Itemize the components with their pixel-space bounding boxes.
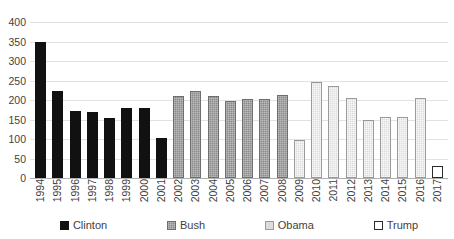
bar-2015[interactable] (397, 117, 408, 178)
y-axis-tick: 100 (8, 134, 26, 145)
x-axis-tick-slot: 1994 (32, 179, 49, 211)
x-axis-tick-slot: 2015 (394, 179, 411, 211)
legend-entry-clinton[interactable]: Clinton (60, 219, 107, 231)
x-axis-tick-label: 2009 (294, 179, 305, 202)
x-axis-tick-label: 1996 (70, 179, 81, 202)
bar-slot (84, 22, 101, 178)
bar-2007[interactable] (259, 99, 270, 178)
bar-slot (118, 22, 135, 178)
x-axis-tick-label: 1995 (52, 179, 63, 202)
x-axis-tick-slot: 2003 (187, 179, 204, 211)
x-axis-tick-label: 2014 (380, 179, 391, 202)
x-axis-tick-slot: 2016 (412, 179, 429, 211)
legend-swatch-icon (265, 221, 274, 230)
bar-1995[interactable] (52, 91, 63, 178)
x-axis-tick-label: 2005 (225, 179, 236, 202)
x-axis-tick-slot: 2009 (291, 179, 308, 211)
x-axis-tick-slot: 2012 (343, 179, 360, 211)
x-axis-tick-slot: 2000 (136, 179, 153, 211)
bar-2003[interactable] (190, 91, 201, 178)
x-axis-tick-slot: 2007 (256, 179, 273, 211)
legend-entry-bush[interactable]: Bush (167, 219, 205, 231)
x-axis-tick-label: 2012 (346, 179, 357, 202)
y-axis-tick: 250 (8, 75, 26, 86)
bar-2004[interactable] (208, 96, 219, 178)
y-axis-tick: 150 (8, 114, 26, 125)
x-axis-tick-label: 2010 (311, 179, 322, 202)
x-axis-tick-label: 2006 (242, 179, 253, 202)
bar-slot (360, 22, 377, 178)
bar-2008[interactable] (277, 95, 288, 178)
bar-2017[interactable] (432, 166, 443, 178)
x-axis-tick-label: 1999 (121, 179, 132, 202)
legend-label: Clinton (73, 219, 107, 231)
x-axis-tick-label: 2011 (328, 179, 339, 202)
legend-swatch-icon (374, 221, 383, 230)
bar-slot (67, 22, 84, 178)
x-axis-tick-slot: 1995 (49, 179, 66, 211)
x-axis-tick-label: 2002 (173, 179, 184, 202)
bar-slot (308, 22, 325, 178)
x-axis-tick-slot: 2008 (274, 179, 291, 211)
bar-2012[interactable] (346, 98, 357, 178)
bar-2014[interactable] (380, 117, 391, 178)
legend-label: Trump (387, 219, 418, 231)
x-axis: 1994199519961997199819992000200120022003… (30, 179, 448, 211)
x-axis-tick-slot: 2004 (205, 179, 222, 211)
bar-slot (377, 22, 394, 178)
legend-label: Bush (180, 219, 205, 231)
x-axis-tick-label: 2015 (397, 179, 408, 202)
x-axis-tick-slot: 1996 (67, 179, 84, 211)
bar-chart: 400350300250200150100500 199419951996199… (0, 0, 454, 239)
x-axis-tick-label: 2000 (139, 179, 150, 202)
bar-slot (291, 22, 308, 178)
y-axis-tick: 350 (8, 36, 26, 47)
bar-2002[interactable] (173, 96, 184, 178)
bar-slot (325, 22, 342, 178)
bar-slot (32, 22, 49, 178)
bar-2006[interactable] (242, 99, 253, 178)
bar-slot (343, 22, 360, 178)
bar-2005[interactable] (225, 101, 236, 178)
bar-slot (49, 22, 66, 178)
x-axis-tick-label: 2003 (190, 179, 201, 202)
bar-slot (205, 22, 222, 178)
y-axis-tick: 200 (8, 95, 26, 106)
bar-slot (274, 22, 291, 178)
bar-1994[interactable] (35, 42, 46, 178)
bar-slot (222, 22, 239, 178)
x-axis-tick-label: 1998 (104, 179, 115, 202)
bar-2010[interactable] (311, 82, 322, 178)
bar-1997[interactable] (87, 112, 98, 178)
legend-entry-trump[interactable]: Trump (374, 219, 418, 231)
x-axis-tick-slot: 1998 (101, 179, 118, 211)
bar-1998[interactable] (104, 118, 115, 178)
bar-2001[interactable] (156, 138, 167, 178)
bar-slot (394, 22, 411, 178)
bar-slot (429, 22, 446, 178)
bar-slot (170, 22, 187, 178)
legend-swatch-icon (167, 221, 176, 230)
y-axis-tick: 400 (8, 17, 26, 28)
bar-slot (136, 22, 153, 178)
x-axis-tick-label: 2016 (415, 179, 426, 202)
bar-series-container (30, 22, 448, 178)
bar-2000[interactable] (139, 108, 150, 178)
x-axis-tick-slot: 2010 (308, 179, 325, 211)
x-axis-tick-label: 2007 (259, 179, 270, 202)
x-axis-tick-slot: 2011 (325, 179, 342, 211)
bar-slot (412, 22, 429, 178)
bar-1996[interactable] (70, 111, 81, 178)
x-axis-tick-slot: 2002 (170, 179, 187, 211)
legend-entry-obama[interactable]: Obama (265, 219, 314, 231)
bar-slot (256, 22, 273, 178)
bar-2016[interactable] (415, 98, 426, 178)
x-axis-tick-slot: 1997 (84, 179, 101, 211)
bar-slot (101, 22, 118, 178)
x-axis-tick-label: 2008 (277, 179, 288, 202)
bar-2011[interactable] (328, 86, 339, 178)
bar-1999[interactable] (121, 108, 132, 178)
bar-2013[interactable] (363, 120, 374, 178)
x-axis-tick-slot: 2005 (222, 179, 239, 211)
bar-2009[interactable] (294, 140, 305, 178)
